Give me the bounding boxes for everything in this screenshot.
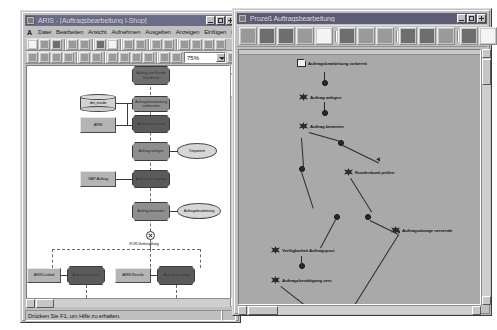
bold-icon[interactable] — [107, 52, 118, 63]
find-icon[interactable] — [79, 39, 90, 50]
maximize-button[interactable] — [216, 16, 225, 25]
save-icon[interactable] — [51, 39, 62, 50]
process-scrollbar-horizontal[interactable] — [238, 305, 481, 314]
process-node-verfuegbarkeit-auftragsposi[interactable]: Verfügbarkeit Auftragsposi — [271, 246, 334, 254]
model-icon[interactable] — [179, 39, 190, 50]
epc-rect-aris-leitfad[interactable]: ARIS-Leitfad — [27, 268, 61, 283]
arrow-right-icon[interactable] — [296, 27, 314, 45]
menu-item-datei[interactable]: Datei — [38, 29, 51, 35]
copy-icon[interactable] — [107, 39, 118, 50]
process-scrollbar-vertical[interactable] — [481, 49, 490, 305]
epc-rect-sap-auftrag[interactable]: SAP-Auftrag — [80, 171, 116, 187]
prozess-window[interactable]: Prozeß Auftragsbearbeitung — [232, 8, 492, 316]
clock-icon[interactable] — [437, 27, 455, 45]
epc-diagram-canvas[interactable]: Auftrag von Kunde Kundensit Auftragsbear… — [26, 65, 230, 307]
star-node-icon[interactable] — [258, 27, 276, 45]
help-icon[interactable] — [215, 39, 226, 50]
bulb-idea-icon[interactable] — [399, 27, 417, 45]
line-style-icon[interactable] — [91, 52, 102, 63]
scroll-left-button[interactable] — [26, 299, 35, 308]
epc-node-auftrag-anlegen[interactable]: Auftrag anlegen — [132, 142, 170, 161]
print-icon[interactable] — [95, 39, 106, 50]
redo-icon[interactable] — [163, 39, 174, 50]
process-node-auftrag-bewerten[interactable]: Auftrag bewerten — [299, 122, 344, 130]
process-node-auftragsbestaetigung-vers[interactable]: Auftragsbestätigung vers — [271, 276, 332, 284]
cart-icon[interactable] — [460, 27, 478, 45]
aris-toolbar-secondary[interactable]: 75% — [25, 51, 236, 64]
epc-role-auftragsbearbeitung[interactable]: Auftragsbearbeitung — [177, 203, 221, 219]
menu-item-einfuegen[interactable]: Einfügen — [204, 29, 226, 35]
epc-database-dm-results[interactable]: dm_results — [80, 94, 116, 112]
scroll-left-button[interactable] — [238, 306, 247, 315]
align-left-icon[interactable] — [51, 52, 62, 63]
undo-icon[interactable] — [151, 39, 162, 50]
menu-item-ausgeben[interactable]: Ausgeben — [145, 29, 170, 35]
close-button[interactable] — [477, 14, 486, 23]
cross-icon[interactable] — [171, 52, 182, 63]
pencil-icon[interactable] — [315, 27, 333, 45]
menu-item-aufnehmen[interactable]: Aufnehmen — [111, 29, 140, 35]
italic-icon[interactable] — [119, 52, 130, 63]
epc-role-disponent[interactable]: Disponent — [177, 143, 217, 159]
new-file-icon[interactable] — [27, 39, 38, 50]
zoom-combobox[interactable]: 75% — [184, 52, 226, 63]
process-node-kundenbonit-pruefen[interactable]: Kundenbonit prüfen — [344, 168, 394, 176]
scroll-thumb-horizontal[interactable] — [248, 306, 278, 315]
run-process-icon[interactable] — [239, 27, 257, 45]
question-help-icon[interactable] — [376, 27, 394, 45]
pointer-icon[interactable] — [27, 52, 38, 63]
maximize-button[interactable] — [467, 14, 476, 23]
process-connector-dot[interactable] — [322, 80, 328, 86]
minimize-button[interactable] — [206, 16, 215, 25]
process-connector-dot[interactable] — [299, 263, 305, 269]
menu-item-ansicht[interactable]: Ansicht — [88, 29, 106, 35]
menu-item-bearbeiten[interactable]: Bearbeiten — [56, 29, 83, 35]
aris-window[interactable]: ARIS - [Auftragsbearbeitung I-Shop] A Da… — [20, 10, 241, 323]
pointer-hand-icon[interactable] — [338, 27, 356, 45]
process-connector-dot[interactable] — [322, 110, 328, 116]
preview-icon[interactable] — [67, 39, 78, 50]
font-size-icon[interactable] — [143, 52, 154, 63]
minimize-button[interactable] — [457, 14, 466, 23]
scroll-right-button[interactable] — [472, 306, 481, 315]
epc-node-auftrag-von-kunde[interactable]: Auftrag von Kunde Kundensit — [132, 66, 170, 85]
check-icon[interactable] — [159, 52, 170, 63]
magnify-icon[interactable] — [357, 27, 375, 45]
epc-rect-aris-results[interactable]: ARIS-Results — [115, 268, 151, 283]
canvas-scrollbar-horizontal[interactable] — [26, 298, 230, 307]
process-node-auftrag-anlegen[interactable]: Auftrag anlegen — [299, 93, 341, 101]
aris-toolbar-primary[interactable] — [25, 38, 236, 51]
chevron-down-icon[interactable] — [216, 53, 225, 62]
prozess-titlebar[interactable]: Prozeß Auftragsbearbeitung — [237, 13, 487, 24]
link-nodes-icon[interactable] — [277, 27, 295, 45]
underline-icon[interactable] — [131, 52, 142, 63]
scroll-thumb-vertical[interactable] — [482, 59, 491, 85]
aris-titlebar[interactable]: ARIS - [Auftragsbearbeitung I-Shop] — [25, 15, 236, 26]
align-right-icon[interactable] — [63, 52, 74, 63]
epc-node-auftrag-bestaetigt[interactable]: Auftrag bestätigt — [157, 266, 195, 285]
paste-icon[interactable] — [135, 39, 146, 50]
database-icon[interactable] — [203, 39, 214, 50]
open-folder-icon[interactable] — [39, 39, 50, 50]
connect-icon[interactable] — [39, 52, 50, 63]
aris-menubar[interactable]: A Datei Bearbeiten Ansicht Aufnehmen Aus… — [25, 27, 236, 37]
scroll-down-button[interactable] — [482, 296, 491, 305]
group-icon[interactable] — [191, 39, 202, 50]
cut-icon[interactable] — [123, 39, 134, 50]
epc-xor-connector[interactable] — [146, 231, 155, 240]
scroll-up-button[interactable] — [482, 49, 491, 58]
epc-node-auftrag-ist-erfasst[interactable]: Auftrag ist erfasst — [132, 115, 170, 133]
process-node-auftragsabsage-versende[interactable]: Auftragsabsage versende — [391, 226, 452, 234]
epc-rect-aris[interactable]: ARIS — [80, 117, 116, 133]
epc-node-auftrag-ist-angelegt[interactable]: Auftrag ist angelegt — [132, 170, 170, 188]
prozess-toolbar[interactable] — [237, 25, 487, 47]
color-fill-icon[interactable] — [79, 52, 90, 63]
epc-node-auftrag-abgelehnt[interactable]: Auftrag abgelehnt — [67, 266, 105, 285]
scroll-thumb-horizontal[interactable] — [36, 299, 54, 308]
epc-node-auftrag-bewerten[interactable]: Auftrag bewerten — [132, 202, 170, 221]
process-canvas[interactable]: Auftragsbearbeitung vorbereit Auftrag an… — [238, 49, 481, 305]
bucket-fill-icon[interactable] — [418, 27, 436, 45]
process-node-auftragsbearbeitung-vorbereit[interactable]: Auftragsbearbeitung vorbereit — [297, 59, 367, 67]
menu-item-anzeigen[interactable]: Anzeigen — [176, 29, 199, 35]
save-process-icon[interactable] — [479, 27, 497, 45]
